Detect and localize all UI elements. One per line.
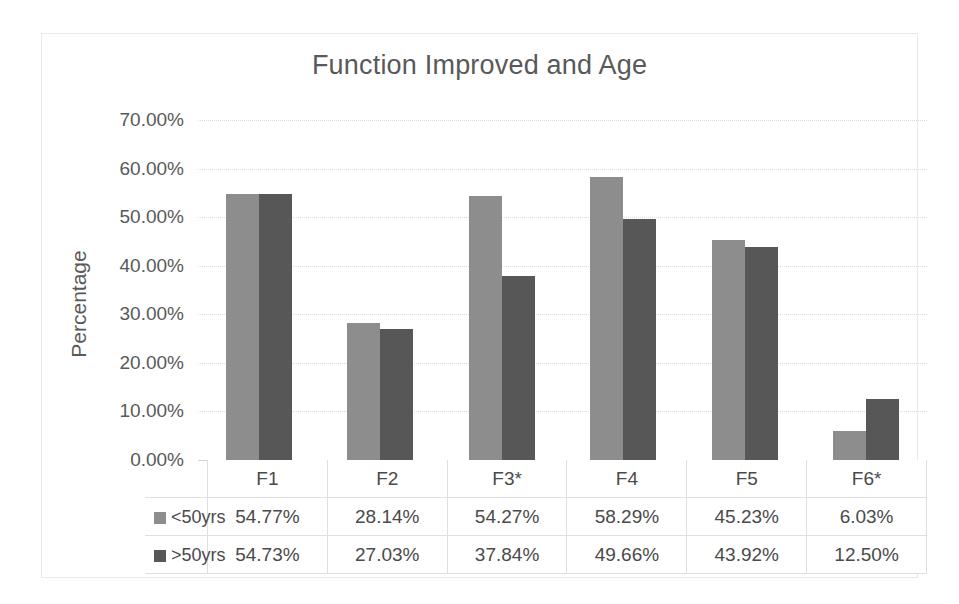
- bar-group: [441, 120, 563, 460]
- bar[interactable]: [590, 177, 623, 460]
- y-axis-tick-label: 30.00%: [120, 303, 184, 325]
- x-axis-category-label: F3*: [447, 460, 567, 498]
- bar-group: [198, 120, 320, 460]
- bar[interactable]: [226, 194, 259, 460]
- y-axis-tick-label: 70.00%: [120, 109, 184, 131]
- table-row: <50yrs54.77%28.14%54.27%58.29%45.23%6.03…: [145, 498, 927, 536]
- legend-swatch-icon: [154, 512, 166, 524]
- bar-group: [806, 120, 928, 460]
- y-axis-tick-label: 50.00%: [120, 206, 184, 228]
- legend-swatch-icon: [154, 550, 166, 562]
- bar[interactable]: [712, 240, 745, 460]
- table-cell-value: 49.66%: [567, 536, 687, 574]
- table-cell-value: 27.03%: [327, 536, 447, 574]
- x-axis-category-label: F4: [567, 460, 687, 498]
- y-axis-tick-label: 40.00%: [120, 255, 184, 277]
- legend-label: <50yrs: [171, 507, 226, 527]
- table-cell-value: 37.84%: [447, 536, 567, 574]
- table-cell-value: 45.23%: [687, 498, 807, 536]
- bar[interactable]: [380, 329, 413, 460]
- bar[interactable]: [745, 247, 778, 460]
- table-cell-value: 12.50%: [807, 536, 927, 574]
- chart-container: Function Improved and Age Percentage 70.…: [41, 33, 918, 578]
- x-axis-category-label: F5: [687, 460, 807, 498]
- plot-area: [198, 120, 927, 460]
- table-row: F1F2F3*F4F5F6*: [145, 460, 927, 498]
- bar[interactable]: [259, 194, 292, 460]
- data-table: F1F2F3*F4F5F6*<50yrs54.77%28.14%54.27%58…: [145, 460, 927, 574]
- chart-title: Function Improved and Age: [42, 50, 917, 81]
- x-axis-category-label: F6*: [807, 460, 927, 498]
- bar[interactable]: [469, 196, 502, 460]
- table-cell-value: 6.03%: [807, 498, 927, 536]
- bar-group: [563, 120, 685, 460]
- table-corner-cell: [145, 460, 208, 498]
- y-axis-tick-label: 60.00%: [120, 158, 184, 180]
- y-axis-tick-labels: 70.00%60.00%50.00%40.00%30.00%20.00%10.0…: [88, 120, 192, 460]
- legend-entry[interactable]: >50yrs: [145, 536, 208, 574]
- table-cell-value: 58.29%: [567, 498, 687, 536]
- bar[interactable]: [347, 323, 380, 460]
- bar[interactable]: [502, 276, 535, 460]
- y-axis-tick-label: 20.00%: [120, 352, 184, 374]
- data-table-body: F1F2F3*F4F5F6*<50yrs54.77%28.14%54.27%58…: [145, 460, 927, 574]
- bar[interactable]: [623, 219, 656, 460]
- x-axis-category-label: F2: [327, 460, 447, 498]
- bar[interactable]: [833, 431, 866, 460]
- bar-group: [684, 120, 806, 460]
- legend-entry[interactable]: <50yrs: [145, 498, 208, 536]
- table-row: >50yrs54.73%27.03%37.84%49.66%43.92%12.5…: [145, 536, 927, 574]
- table-cell-value: 28.14%: [327, 498, 447, 536]
- bars-layer: [198, 120, 927, 460]
- table-cell-value: 43.92%: [687, 536, 807, 574]
- legend-label: >50yrs: [171, 545, 226, 565]
- bar[interactable]: [866, 399, 899, 460]
- bar-group: [320, 120, 442, 460]
- table-cell-value: 54.27%: [447, 498, 567, 536]
- y-axis-tick-label: 10.00%: [120, 400, 184, 422]
- x-axis-category-label: F1: [208, 460, 328, 498]
